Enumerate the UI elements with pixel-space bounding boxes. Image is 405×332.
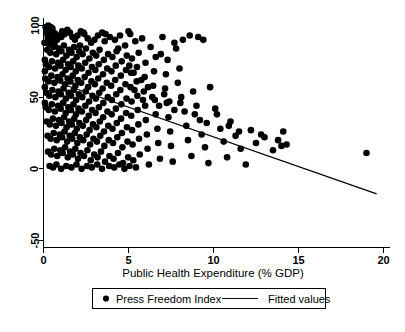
scatter-point	[126, 62, 133, 69]
scatter-point	[49, 58, 56, 65]
scatter-point	[49, 87, 56, 94]
scatter-point	[192, 111, 199, 118]
scatter-point	[58, 48, 65, 55]
scatter-point	[165, 114, 172, 121]
scatter-point	[163, 71, 170, 78]
scatter-point	[113, 120, 120, 127]
scatter-point	[151, 68, 158, 75]
scatter-point	[139, 35, 146, 42]
scatter-point	[68, 121, 75, 128]
scatter-point	[70, 151, 77, 158]
scatter-point	[155, 140, 162, 147]
scatter-point	[181, 108, 188, 115]
scatter-point	[95, 61, 102, 68]
scatter-point	[79, 123, 86, 130]
scatter-point	[78, 80, 85, 87]
scatter-point	[168, 143, 175, 150]
scatter-point	[77, 42, 84, 49]
scatter-point	[158, 51, 165, 58]
x-tick-label: 15	[292, 254, 304, 266]
scatter-point	[80, 29, 87, 36]
scatter-point	[154, 125, 161, 132]
scatter-point	[47, 135, 54, 142]
scatter-point	[363, 150, 370, 157]
scatter-point	[171, 39, 178, 46]
scatter-point	[61, 114, 68, 121]
scatter-point	[136, 135, 143, 142]
scatter-point	[92, 81, 99, 88]
scatter-point	[108, 111, 115, 118]
scatter-point	[101, 57, 108, 64]
scatter-point	[144, 131, 151, 138]
scatter-point	[92, 110, 99, 117]
scatter-point	[138, 77, 145, 84]
scatter-point	[57, 62, 64, 69]
scatter-point	[51, 145, 58, 152]
x-tick-label: 10	[207, 254, 219, 266]
scatter-point	[72, 145, 79, 152]
scatter-point	[169, 158, 176, 165]
scatter-point	[53, 123, 60, 130]
scatter-point	[60, 57, 67, 64]
scatter-point	[79, 51, 86, 58]
scatter-point	[112, 77, 119, 84]
scatter-point	[48, 72, 55, 79]
scatter-point	[178, 94, 185, 101]
scatter-point	[70, 101, 77, 108]
scatter-point	[93, 124, 100, 131]
x-tick-label: 20	[377, 254, 389, 266]
scatter-point	[197, 117, 204, 124]
scatter-point	[134, 92, 141, 99]
scatter-point	[214, 111, 221, 118]
scatter-point	[52, 108, 59, 115]
scatter-point	[94, 154, 101, 161]
scatter-point	[101, 143, 108, 150]
scatter-point	[185, 137, 192, 144]
y-tick-label: 0	[29, 166, 41, 172]
scatter-point	[113, 91, 120, 98]
scatter-point	[59, 71, 66, 78]
scatter-point	[130, 157, 137, 164]
scatter-point	[41, 39, 48, 46]
scatter-point	[118, 72, 125, 79]
scatter-point	[136, 151, 143, 158]
scatter-point	[133, 164, 140, 171]
scatter-point	[258, 131, 265, 138]
scatter-point	[50, 130, 57, 137]
scatter-point	[180, 37, 187, 44]
scatter-point	[130, 70, 137, 77]
scatter-point	[226, 123, 233, 130]
scatter-point	[205, 160, 212, 167]
scatter-point	[87, 141, 94, 148]
scatter-point	[177, 100, 184, 107]
scatter-point	[96, 90, 103, 97]
scatter-point	[171, 107, 178, 114]
scatter-point	[167, 128, 174, 135]
scatter-point	[207, 84, 214, 91]
scatter-point	[115, 45, 122, 52]
scatter-point	[157, 156, 164, 163]
scatter-point	[71, 130, 78, 137]
scatter-point	[83, 45, 90, 52]
scatter-point	[61, 42, 68, 49]
scatter-point	[176, 65, 183, 72]
scatter-point	[224, 154, 231, 161]
scatter-point	[132, 38, 139, 45]
scatter-point	[128, 98, 135, 105]
scatter-point	[46, 121, 53, 128]
scatter-point	[71, 115, 78, 122]
scatter-point	[87, 157, 94, 164]
scatter-point	[193, 102, 200, 109]
legend: Press Freedom Index Fitted values	[93, 289, 331, 309]
scatter-point	[82, 102, 89, 109]
scatter-point	[67, 64, 74, 71]
scatter-point	[59, 150, 66, 157]
scatter-point	[278, 143, 285, 150]
scatter-point	[129, 55, 136, 62]
scatter-point	[134, 64, 141, 71]
scatter-point	[96, 104, 103, 111]
scatter-point	[92, 67, 99, 74]
scatter-point	[67, 78, 74, 85]
scatter-point	[78, 65, 85, 72]
scatter-point	[146, 161, 153, 168]
